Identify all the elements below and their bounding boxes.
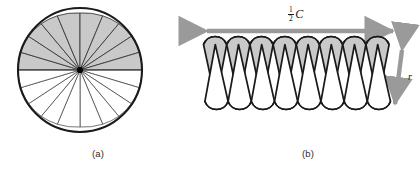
shaded-sectors-group (18, 13, 142, 70)
circle-sector-diagram (0, 0, 196, 148)
figure-root: (a) (0, 0, 420, 174)
triangle-strip-group (204, 36, 391, 109)
fraction-denominator: 2 (288, 14, 294, 23)
caption-b: (b) (196, 148, 420, 159)
unrolled-sector-diagram (196, 0, 420, 148)
panel-a-circle: (a) (0, 0, 196, 174)
height-dimension-arrow (395, 50, 402, 104)
panel-b-unrolled: 1 2 C r (b) (196, 0, 420, 174)
fraction-numerator: 1 (288, 6, 294, 14)
radius-label: r (408, 71, 412, 82)
unshaded-sectors-group (18, 70, 142, 127)
circumference-variable: C (294, 7, 304, 21)
caption-a: (a) (0, 148, 196, 159)
width-label: 1 2 C (288, 6, 303, 23)
one-half-fraction: 1 2 (288, 6, 294, 23)
center-dot (77, 67, 83, 73)
